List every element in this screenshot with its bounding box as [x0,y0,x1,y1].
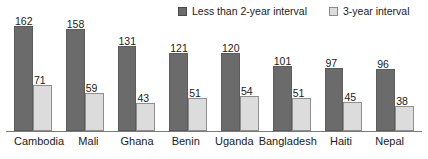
bar-value-label: 131 [119,36,137,47]
bar-slot: 96 [376,26,395,131]
x-axis-label: Uganda [210,135,259,147]
bar-group: 12151 [169,26,207,131]
bar: 120 [221,53,240,131]
chart-legend: Less than 2-year interval 3-year interva… [178,6,410,17]
bar-group: 10151 [273,26,311,131]
x-axis-label: Nepal [365,135,414,147]
light-swatch-icon [329,7,338,16]
bar-value-label: 120 [222,43,240,54]
x-axis-label: Mali [64,135,113,147]
bar-value-label: 97 [326,58,338,69]
x-axis-label: Haiti [317,135,366,147]
bar: 96 [376,69,395,131]
legend-item-label: Less than 2-year interval [192,6,307,17]
bar-group: 9745 [325,26,363,131]
bar-group: 16271 [14,26,52,131]
bar: 45 [343,102,362,131]
bar: 131 [118,46,137,131]
bar: 54 [240,96,259,131]
bar: 43 [136,103,155,131]
bar: 158 [66,29,85,131]
bar-slot: 131 [118,26,137,131]
legend-item-label: 3-year interval [343,6,410,17]
bar-slot: 38 [395,26,414,131]
bar-value-label: 101 [274,56,292,67]
bar: 38 [395,106,414,131]
bar-value-label: 43 [137,93,149,104]
bar: 101 [273,66,292,131]
x-axis-label: Benin [161,135,210,147]
bar-group: 15859 [66,26,104,131]
bar-value-label: 96 [377,59,389,70]
bar-slot: 71 [33,26,52,131]
x-axis-label: Ghana [113,135,162,147]
bar-slot: 97 [325,26,344,131]
bar-value-label: 51 [293,88,305,99]
bar-value-label: 38 [396,96,408,107]
legend-item-3-year: 3-year interval [329,6,410,17]
bar: 51 [292,98,311,131]
bar-value-label: 54 [241,86,253,97]
x-axis-label: Cambodia [14,135,64,147]
bar: 121 [169,53,188,131]
grouped-bar-chart: Less than 2-year interval 3-year interva… [0,0,428,159]
bar: 51 [188,98,207,131]
bar-value-label: 51 [189,88,201,99]
bar-value-label: 45 [344,92,356,103]
bar: 162 [14,26,33,131]
bar-slot: 51 [188,26,207,131]
bar-group: 12054 [221,26,259,131]
bar-slot: 101 [273,26,292,131]
dark-swatch-icon [178,7,187,16]
bar-slot: 45 [343,26,362,131]
bar-group: 9638 [376,26,414,131]
bar-slot: 158 [66,26,85,131]
x-axis-line [6,131,422,132]
plot-area: 16271158591314312151120541015197459638 [14,26,414,131]
bar-slot: 121 [169,26,188,131]
bar-value-label: 71 [34,75,46,86]
x-axis-label: Bangladesh [259,135,317,147]
bar: 71 [33,85,52,131]
x-axis-labels: CambodiaMaliGhanaBeninUgandaBangladeshHa… [14,135,414,147]
bar-value-label: 121 [170,43,188,54]
bar-group: 13143 [118,26,156,131]
legend-item-less-than-2-year: Less than 2-year interval [178,6,307,17]
bar-slot: 120 [221,26,240,131]
bar-slot: 43 [136,26,155,131]
bar: 97 [325,68,344,131]
bar-value-label: 162 [15,16,33,27]
bar-slot: 162 [14,26,33,131]
bar: 59 [85,93,104,131]
bar-slot: 59 [85,26,104,131]
bar-value-label: 158 [67,19,85,30]
bar-slot: 54 [240,26,259,131]
bar-slot: 51 [292,26,311,131]
bar-value-label: 59 [86,83,98,94]
